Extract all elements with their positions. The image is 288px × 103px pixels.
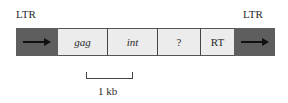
ltr-left-segment — [16, 28, 58, 56]
int-label: int — [127, 36, 139, 48]
rt-label: RT — [211, 36, 224, 48]
ltr-left-label: LTR — [16, 9, 36, 20]
ltr-right-label: LTR — [243, 9, 263, 20]
ltr-right-segment — [234, 28, 275, 56]
gag-segment: gag — [58, 28, 107, 56]
scale-bar-label: 1 kb — [98, 86, 117, 97]
arrow-right-icon — [23, 38, 51, 46]
unknown-segment: ? — [157, 28, 200, 56]
int-segment: int — [107, 28, 157, 56]
rt-segment: RT — [200, 28, 234, 56]
scale-bar — [86, 72, 133, 79]
genome-bar: gag int ? RT — [16, 28, 275, 56]
arrow-right-icon — [241, 38, 269, 46]
gag-label: gag — [74, 36, 91, 48]
unknown-label: ? — [177, 36, 182, 48]
